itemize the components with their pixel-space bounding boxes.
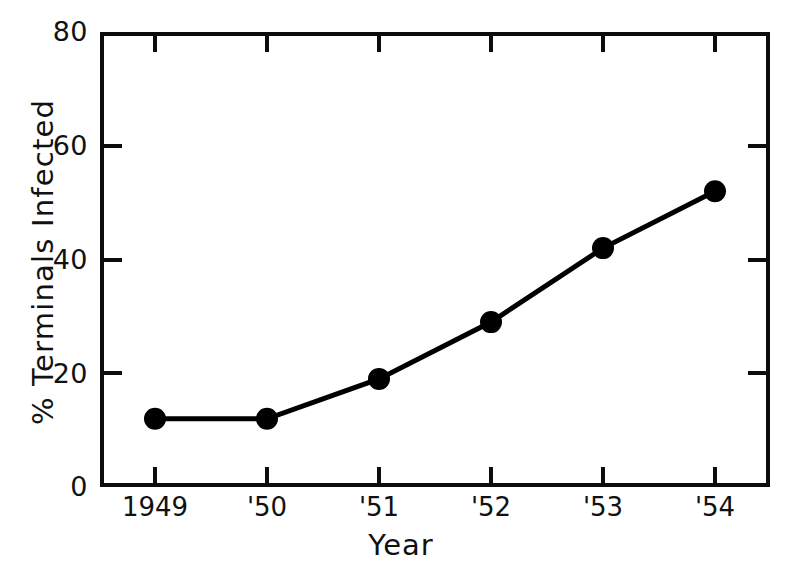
x-tick-label-54: '54 [695,492,735,522]
y-tick-label-0: 0 [70,471,88,502]
y-axis-title: % Terminals Infected [26,99,60,425]
x-tick-label-53: '53 [583,492,623,522]
chart-page: 80 60 40 20 0 % Terminals Infected [0,0,802,575]
x-tick-label-52: '52 [471,492,511,522]
x-tick-label-50: '50 [247,492,287,522]
y-axis-title-wrapper: % Terminals Infected [26,0,60,542]
plot-area [100,32,770,487]
x-axis-title: Year [0,528,802,562]
x-tick-label-51: '51 [359,492,399,522]
x-tick-label-1949: 1949 [122,492,188,522]
